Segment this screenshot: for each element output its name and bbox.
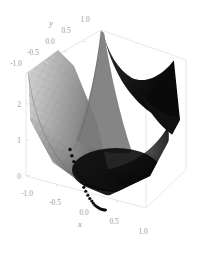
descent-marker bbox=[68, 148, 72, 152]
plot-canvas: 1.0 0.5 0.0 -0.5 -1.0 y 2 1 0 -1.0 -0.5 … bbox=[0, 0, 198, 255]
descent-marker bbox=[80, 180, 83, 183]
y-tick-3: 0.0 bbox=[45, 37, 55, 46]
descent-marker bbox=[88, 197, 91, 200]
descent-marker bbox=[104, 209, 107, 212]
descent-marker bbox=[76, 171, 79, 174]
x-tick-2: -0.5 bbox=[49, 198, 61, 207]
paraboloid-surface bbox=[28, 31, 182, 196]
z-tick-2: 2 bbox=[17, 100, 21, 109]
x-tick-1: -1.0 bbox=[21, 189, 33, 198]
z-tick-1: 1 bbox=[17, 136, 21, 145]
y-tick-1: 1.0 bbox=[80, 15, 90, 24]
y-axis-title: y bbox=[48, 19, 53, 28]
descent-marker bbox=[70, 154, 73, 157]
z-tick-0: 0 bbox=[17, 172, 21, 181]
y-tick-5: -1.0 bbox=[10, 59, 22, 68]
frame-edge-floor-right bbox=[146, 170, 186, 208]
y-tick-2: 0.5 bbox=[61, 26, 71, 35]
descent-marker bbox=[72, 160, 75, 163]
surface-minimum-shadow bbox=[72, 148, 160, 192]
y-tick-4: -0.5 bbox=[27, 48, 39, 57]
descent-marker bbox=[78, 175, 81, 178]
x-axis-title: x bbox=[77, 220, 82, 229]
x-tick-5: 1.0 bbox=[138, 227, 148, 236]
x-tick-3: 0.0 bbox=[79, 208, 89, 217]
x-tick-4: 0.5 bbox=[109, 217, 119, 226]
descent-marker bbox=[74, 166, 77, 169]
surface-plot-figure: 1.0 0.5 0.0 -0.5 -1.0 y 2 1 0 -1.0 -0.5 … bbox=[0, 0, 198, 255]
descent-marker bbox=[82, 186, 85, 189]
frame-edge-x-top bbox=[101, 30, 186, 60]
